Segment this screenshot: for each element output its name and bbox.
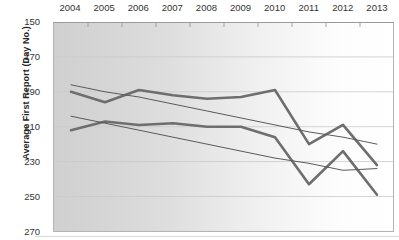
y-tick-label: 210 [0,122,40,132]
series-layer [54,22,394,231]
plot-area [53,22,394,232]
y-tick-label: 170 [0,52,40,62]
x-tick-label: 2013 [357,3,397,13]
y-tick-label: 230 [0,157,40,167]
y-tick-label: 250 [0,192,40,202]
chart-baseline-rule [35,236,399,237]
y-tick-label: 190 [0,87,40,97]
x-axis-tick-labels: 2004200520062007200820092010201120122013 [0,0,399,18]
data-series-trend-1-thin [71,85,377,144]
y-tick-label: 150 [0,17,40,27]
chart-container: Average First Report (Day No.) 150170190… [0,0,399,240]
y-axis-tick-labels: 150170190210230250270 [0,0,40,240]
y-tick-label: 270 [0,227,40,237]
